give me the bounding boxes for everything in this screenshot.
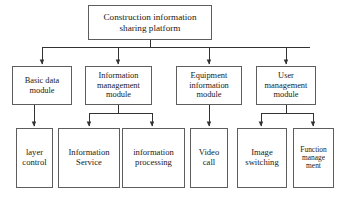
node-basic-data-module-label: Basic data module: [14, 76, 70, 95]
node-layer-control-label: layer control: [18, 148, 51, 167]
node-image-switching-label: Image switching: [239, 148, 285, 167]
node-video-call[interactable]: Video call: [190, 128, 228, 188]
node-function-management[interactable]: Function manage ment: [293, 128, 334, 188]
node-image-switching[interactable]: Image switching: [237, 128, 287, 188]
node-user-management-module[interactable]: User management module: [256, 66, 316, 105]
node-user-management-module-label: User management module: [258, 71, 314, 99]
node-information-management-module-label: Information management module: [87, 71, 150, 99]
node-information-service-label: Information Service: [60, 148, 118, 167]
node-information-service[interactable]: Information Service: [58, 128, 120, 188]
node-function-management-label: Function manage ment: [295, 146, 332, 171]
node-video-call-label: Video call: [192, 148, 226, 167]
node-information-processing[interactable]: information processing: [122, 128, 185, 188]
node-equipment-information-module-label: Equipment information module: [178, 71, 240, 99]
node-information-processing-label: information processing: [124, 148, 183, 167]
node-equipment-information-module[interactable]: Equipment information module: [176, 66, 242, 105]
node-root-label: Construction information sharing platfor…: [90, 12, 210, 33]
node-information-management-module[interactable]: Information management module: [85, 66, 152, 105]
node-root[interactable]: Construction information sharing platfor…: [88, 5, 212, 40]
node-basic-data-module[interactable]: Basic data module: [12, 66, 72, 105]
architecture-diagram: Construction information sharing platfor…: [0, 0, 343, 198]
node-layer-control[interactable]: layer control: [16, 128, 53, 188]
